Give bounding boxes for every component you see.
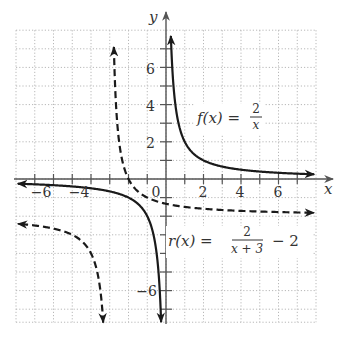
- x-tick-label-6: 6: [274, 184, 283, 200]
- x-tick-label-neg6: −6: [31, 184, 52, 200]
- r-equation-denominator: x + 3: [231, 242, 263, 256]
- r-curve-branch: [18, 224, 103, 323]
- y-tick-label-2: 2: [146, 135, 155, 151]
- axes: [14, 12, 333, 324]
- y-tick-label-neg6: −6: [136, 283, 157, 299]
- r-equation-suffix: − 2: [272, 232, 299, 250]
- y-tick-label-6: 6: [146, 61, 155, 77]
- x-axis-label: x: [324, 180, 333, 198]
- x-tick-label-0: 0: [152, 184, 161, 200]
- y-axis-label: y: [148, 8, 158, 26]
- x-tick-label-4: 4: [236, 184, 245, 200]
- r-equation-lhs: r(x) =: [168, 232, 213, 250]
- r-equation-numerator: 2: [243, 225, 251, 239]
- x-tick-label-2: 2: [199, 184, 208, 200]
- graph-figure: y x −6 −4 0 2 4 6 6 4 2 −6 f(x) = 2 x r(…: [0, 0, 341, 337]
- f-equation-numerator: 2: [252, 102, 260, 116]
- f-equation-lhs: f(x) =: [196, 109, 240, 127]
- y-tick-label-4: 4: [146, 98, 155, 114]
- x-tick-label-neg4: −4: [69, 184, 90, 200]
- r-equation-label: r(x) = 2 x + 3 − 2: [166, 225, 312, 258]
- f-equation-label: f(x) = 2 x: [195, 102, 265, 134]
- f-equation-denominator: x: [253, 118, 260, 132]
